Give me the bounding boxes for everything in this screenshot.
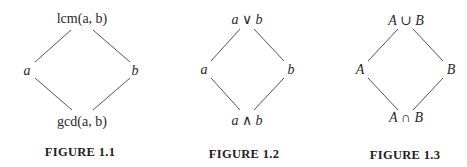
edge-top-right	[413, 29, 443, 61]
edge-left-bottom	[35, 78, 72, 110]
node-b: b	[132, 63, 139, 79]
figure-caption: FIGURE 1.2	[209, 147, 279, 162]
figure-caption: FIGURE 1.3	[370, 148, 440, 163]
edge-left-bottom	[368, 78, 398, 110]
node-b: b	[288, 62, 295, 78]
node-a: a	[24, 63, 31, 79]
node-intersection: A ∩ B	[389, 110, 423, 126]
node-meet: a ∧ b	[231, 112, 262, 129]
edge-right-bottom	[93, 78, 130, 110]
node-lcm: lcm(a, b)	[57, 11, 108, 27]
edge-top-right	[93, 30, 130, 62]
edge-top-right	[254, 29, 284, 61]
node-B: B	[447, 62, 456, 78]
edge-right-bottom	[254, 78, 284, 110]
node-union: A ∪ B	[388, 12, 424, 29]
edge-left-bottom	[211, 78, 240, 110]
edge-right-bottom	[413, 78, 443, 110]
node-A: A	[356, 62, 365, 78]
node-join: a ∨ b	[231, 11, 262, 28]
figure-caption: FIGURE 1.1	[45, 145, 115, 160]
edge-top-left	[35, 30, 71, 62]
node-a: a	[201, 62, 208, 78]
node-gcd: gcd(a, b)	[57, 114, 107, 130]
edge-top-left	[211, 29, 240, 61]
edge-top-left	[368, 29, 398, 61]
